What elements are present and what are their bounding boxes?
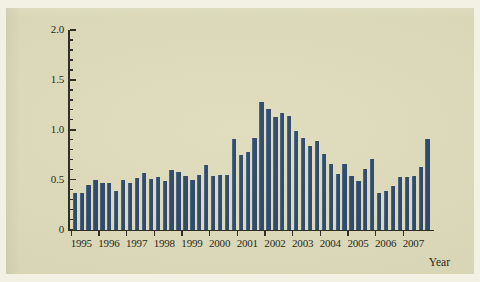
bar: [405, 177, 409, 230]
bar: [329, 164, 333, 230]
bar: [156, 177, 160, 230]
bar: [121, 180, 125, 230]
bar: [100, 183, 104, 230]
bar: [128, 183, 132, 230]
bar: [149, 179, 153, 230]
bar: [86, 185, 90, 230]
bar: [190, 180, 194, 230]
bar: [93, 180, 97, 230]
bars-layer: [6, 8, 474, 274]
bar: [342, 164, 346, 230]
bar: [107, 183, 111, 230]
bar: [294, 131, 298, 230]
x-axis-title: Year: [429, 257, 450, 269]
bar: [266, 109, 270, 230]
bar: [370, 159, 374, 230]
bar: [142, 173, 146, 230]
bar: [211, 176, 215, 230]
bar: [218, 175, 222, 230]
bar: [232, 139, 236, 230]
bar: [412, 176, 416, 230]
bar: [259, 102, 263, 230]
bar: [377, 193, 381, 230]
bar: [163, 181, 167, 230]
bar: [356, 181, 360, 230]
bar: [80, 193, 84, 230]
bar: [308, 146, 312, 230]
bar: [176, 172, 180, 230]
bar: [135, 178, 139, 230]
bar: [398, 177, 402, 230]
bar: [349, 176, 353, 230]
bar: [197, 175, 201, 230]
bar: [169, 170, 173, 230]
bar: [322, 154, 326, 230]
plot-area: 00.51.01.52.0199519961997199819992000200…: [6, 8, 474, 274]
bar: [280, 113, 284, 230]
bar: [363, 169, 367, 230]
figure-panel: 00.51.01.52.0199519961997199819992000200…: [6, 8, 474, 274]
bar: [391, 186, 395, 230]
bar: [419, 167, 423, 230]
bar: [252, 138, 256, 230]
bar: [225, 175, 229, 230]
bar: [246, 152, 250, 230]
bar: [183, 176, 187, 230]
bar: [301, 138, 305, 230]
bar: [204, 165, 208, 230]
bar: [384, 191, 388, 230]
bar: [315, 141, 319, 230]
bar: [273, 117, 277, 230]
chart-page: 00.51.01.52.0199519961997199819992000200…: [0, 0, 480, 282]
bar: [239, 155, 243, 230]
bar: [425, 139, 429, 230]
bar: [336, 174, 340, 230]
bar: [287, 116, 291, 230]
bar: [73, 193, 77, 230]
bar: [114, 191, 118, 230]
